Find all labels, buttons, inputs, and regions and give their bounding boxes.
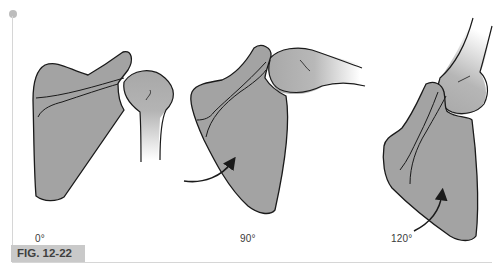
illustration-canvas [0,0,504,272]
panel-0-degrees [33,52,173,201]
angle-label-120: 120° [391,233,412,244]
humerus-0 [124,71,174,160]
humerus-120 [438,18,492,115]
scapulohumeral-rhythm-figure: 0° 90° 120° FIG. 12-22 [0,0,504,272]
scapula-0 [33,52,131,201]
humerus-90 [268,48,360,94]
panel-90-degrees [184,46,365,214]
panel-120-degrees [383,18,492,241]
angle-label-90: 90° [240,233,256,244]
angle-label-0: 0° [35,233,45,244]
figure-number-label: FIG. 12-22 [11,245,85,262]
